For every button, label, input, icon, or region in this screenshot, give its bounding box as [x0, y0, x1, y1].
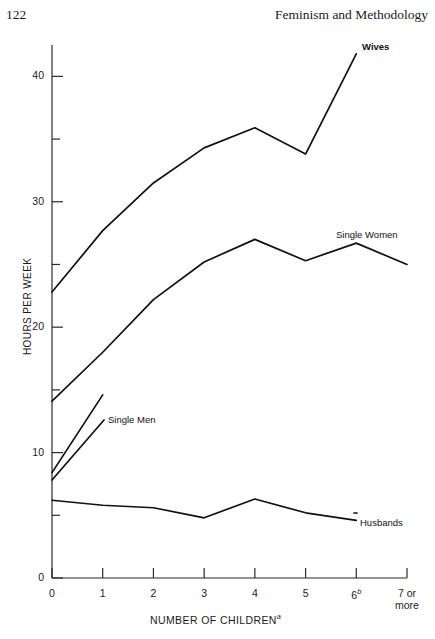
x-axis-tick-label: 0 [35, 587, 69, 599]
y-axis-tick-label: 40 [22, 69, 44, 81]
x-axis-tick-label-line: 7 or [387, 587, 427, 599]
x-axis-tick-label: 1 [86, 587, 120, 599]
series-line-single-men [52, 395, 103, 473]
x-axis-title: NUMBER OF CHILDRENa [150, 612, 281, 626]
chart-series-lines [52, 54, 407, 521]
y-axis-tick-label: 30 [22, 195, 44, 207]
x-axis-tick-label: 6b [339, 587, 373, 601]
x-axis-ticks [52, 568, 407, 578]
chart-axes [52, 45, 407, 578]
x-axis-tick-footnote-marker: b [357, 587, 361, 596]
label-leader-lines [52, 420, 357, 513]
y-axis-tick-label: 0 [22, 571, 44, 583]
page-canvas: 122 Feminism and Methodology 010203040 0… [0, 0, 435, 639]
y-axis-title: HOURS PER WEEK [22, 258, 33, 355]
x-axis-tick-label: 3 [187, 587, 221, 599]
y-axis-ticks [52, 76, 63, 578]
y-axis-tick-label: 10 [22, 446, 44, 458]
x-axis-tick-label: 7 ormore [387, 587, 427, 611]
series-line-husbands [52, 499, 356, 520]
x-axis-tick-label-line: more [387, 599, 427, 611]
series-line-wives [52, 54, 356, 292]
series-label-single-men: Single Men [108, 414, 156, 425]
x-axis-title-footnote-marker: a [277, 612, 281, 621]
x-axis-tick-label: 2 [136, 587, 170, 599]
series-label-wives: Wives [362, 41, 389, 52]
line-chart-plot [0, 0, 435, 639]
series-label-single-women: Single Women [336, 229, 398, 240]
x-axis-title-text: NUMBER OF CHILDREN [150, 614, 277, 626]
x-axis-tick-label: 5 [289, 587, 323, 599]
series-label-husbands: Husbands [360, 517, 403, 528]
series-line-single-women [52, 239, 407, 401]
single-men-leader-line [52, 420, 104, 480]
x-axis-tick-label: 4 [238, 587, 272, 599]
